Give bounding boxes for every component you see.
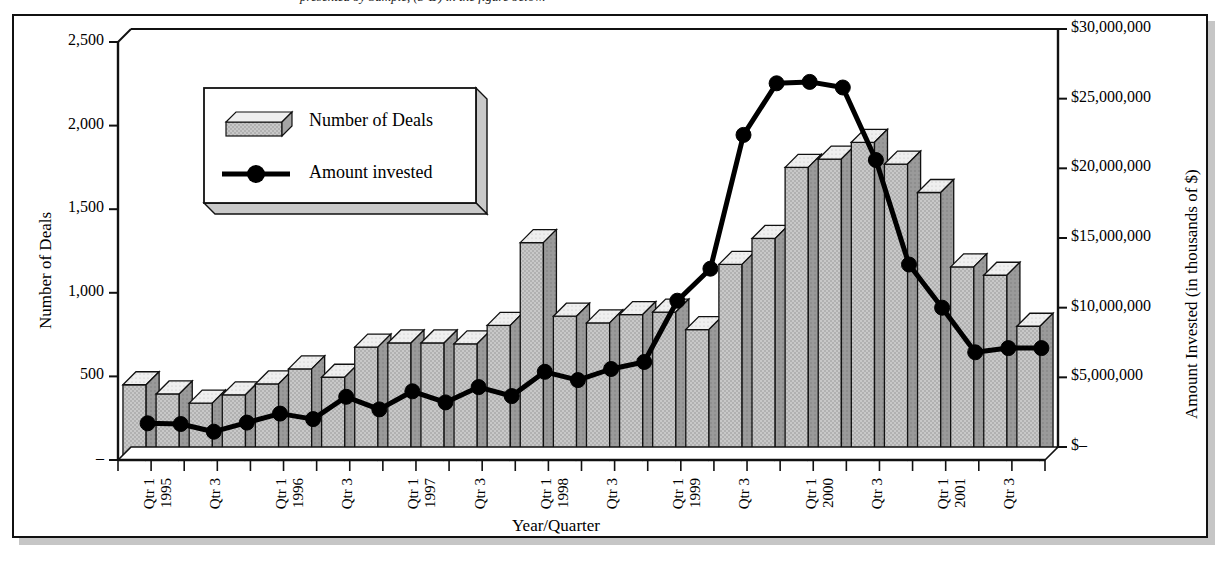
cut-off-caption-strip: presented by Sample, (3-D) in the figure… bbox=[0, 0, 1229, 12]
x-axis-tick-label-year: 1999 bbox=[687, 478, 704, 508]
y-axis-tick-label: – bbox=[96, 449, 104, 467]
x-axis-tick-label-quarter: Qtr 1 bbox=[803, 478, 820, 509]
legend-entry-label: Amount invested bbox=[309, 162, 433, 183]
chart-figure-frame: 2,5002,0001,5001,000500–$30,000,000$25,0… bbox=[12, 14, 1208, 538]
line-marker bbox=[902, 257, 917, 272]
x-axis-tick-label-quarter: Qtr 1 bbox=[405, 478, 422, 509]
x-axis-tick-label-quarter: Qtr 1 bbox=[141, 478, 158, 509]
y2-axis-tick-label: $20,000,000 bbox=[1071, 157, 1151, 175]
chart-svg bbox=[14, 16, 1210, 540]
line-marker bbox=[306, 412, 321, 427]
y2-axis-tick-label: $5,000,000 bbox=[1071, 366, 1143, 384]
x-axis-tick-label-quarter: Qtr 1 bbox=[538, 478, 555, 509]
x-axis-tick-label-quarter: Qtr 3 bbox=[869, 478, 886, 509]
y-axis-tick-label: 500 bbox=[80, 365, 104, 383]
y2-axis-tick-label: $30,000,000 bbox=[1071, 18, 1151, 36]
x-axis-tick-label-year: 2001 bbox=[952, 478, 969, 508]
bar-column bbox=[719, 251, 755, 460]
legend-entry-label: Number of Deals bbox=[309, 110, 433, 131]
chart-plot-area: 2,5002,0001,5001,000500–$30,000,000$25,0… bbox=[14, 16, 1210, 540]
x-axis-tick-label-quarter: Qtr 3 bbox=[736, 478, 753, 509]
y2-axis-title: Amount Invested (in thousands of $) bbox=[1182, 169, 1202, 419]
x-axis-tick-label-quarter: Qtr 1 bbox=[670, 478, 687, 509]
bar-column bbox=[355, 334, 391, 460]
bar-column bbox=[785, 154, 821, 460]
x-axis-tick-label-quarter: Qtr 1 bbox=[273, 478, 290, 509]
line-marker bbox=[835, 80, 850, 95]
bar-column bbox=[984, 262, 1020, 460]
line-marker bbox=[736, 127, 751, 142]
line-marker bbox=[206, 424, 221, 439]
x-axis-tick-label-year: 1996 bbox=[290, 478, 307, 508]
line-marker bbox=[438, 395, 453, 410]
line-marker bbox=[703, 261, 718, 276]
bar-column bbox=[818, 146, 854, 460]
y-axis-tick-label: 1,000 bbox=[68, 282, 104, 300]
x-axis-tick-label-quarter: Qtr 3 bbox=[472, 478, 489, 509]
line-marker bbox=[1001, 341, 1016, 356]
bar-column bbox=[289, 356, 325, 460]
bar-column bbox=[620, 302, 656, 460]
bar-column bbox=[752, 225, 788, 460]
caption-text: presented by Sample, (3-D) in the figure… bbox=[300, 0, 545, 5]
legend-box-group bbox=[204, 88, 487, 214]
y2-axis-tick-label: $– bbox=[1071, 436, 1087, 454]
y-axis-title: Number of Deals bbox=[36, 212, 56, 329]
x-axis-tick-label-quarter: Qtr 3 bbox=[339, 478, 356, 509]
legend-bar-swatch bbox=[226, 122, 282, 136]
x-axis-tick-label-quarter: Qtr 3 bbox=[604, 478, 621, 509]
line-marker bbox=[273, 406, 288, 421]
x-axis-tick-label-quarter: Qtr 1 bbox=[935, 478, 952, 509]
line-marker bbox=[769, 76, 784, 91]
x-axis-tick-label-quarter: Qtr 3 bbox=[1001, 478, 1018, 509]
y2-axis-tick-label: $25,000,000 bbox=[1071, 88, 1151, 106]
x-axis-tick-label-year: 1995 bbox=[158, 478, 175, 508]
line-marker bbox=[1034, 341, 1049, 356]
line-marker bbox=[570, 373, 585, 388]
line-marker bbox=[339, 389, 354, 404]
line-marker bbox=[405, 384, 420, 399]
line-marker bbox=[372, 402, 387, 417]
line-marker bbox=[868, 153, 883, 168]
x-axis-tick-label-year: 1998 bbox=[555, 478, 572, 508]
bar-column bbox=[686, 317, 722, 460]
bar-column bbox=[487, 312, 523, 460]
x-axis-tick-label-year: 1997 bbox=[422, 478, 439, 508]
line-marker bbox=[471, 380, 486, 395]
line-marker bbox=[935, 300, 950, 315]
line-marker bbox=[537, 364, 552, 379]
bar-column bbox=[653, 299, 689, 460]
line-marker bbox=[604, 362, 619, 377]
line-marker bbox=[637, 355, 652, 370]
line-marker bbox=[802, 74, 817, 89]
y-axis-tick-label: 2,000 bbox=[68, 115, 104, 133]
y-axis-tick-label: 1,500 bbox=[68, 198, 104, 216]
bar-column bbox=[1017, 313, 1053, 460]
y2-axis-tick-label: $15,000,000 bbox=[1071, 227, 1151, 245]
bar-column bbox=[586, 310, 622, 460]
line-marker bbox=[140, 416, 155, 431]
line-marker bbox=[968, 345, 983, 360]
x-axis-tick-label-year: 2000 bbox=[820, 478, 837, 508]
line-marker bbox=[239, 415, 254, 430]
x-axis-title: Year/Quarter bbox=[14, 516, 1098, 536]
y2-axis-tick-label: $10,000,000 bbox=[1071, 297, 1151, 315]
x-axis-tick-label-quarter: Qtr 3 bbox=[207, 478, 224, 509]
line-marker bbox=[670, 293, 685, 308]
y-axis-tick-label: 2,500 bbox=[68, 31, 104, 49]
line-marker bbox=[173, 417, 188, 432]
bar-column bbox=[520, 230, 556, 460]
line-marker bbox=[504, 389, 519, 404]
